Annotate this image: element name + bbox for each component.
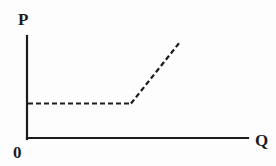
price-axis-label: P [18, 11, 28, 28]
plot-canvas [0, 0, 276, 166]
supply-curve-rising-segment [131, 42, 180, 104]
figure-container: P Q 0 [0, 0, 276, 166]
quantity-axis-label: Q [255, 132, 268, 149]
origin-label: 0 [13, 144, 22, 161]
